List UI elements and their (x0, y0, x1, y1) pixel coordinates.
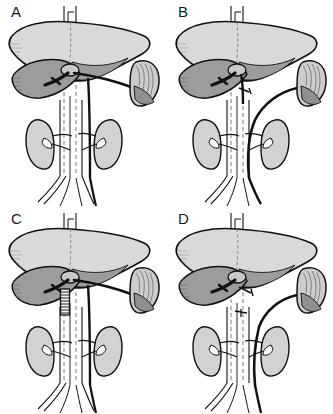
spleen-c (130, 268, 159, 313)
panel-b: B (167, 0, 333, 207)
panel-c-illustration (0, 207, 166, 414)
iliac-vessels-d (205, 383, 261, 413)
panel-b-illustration (167, 0, 333, 207)
panel-a-illustration (0, 0, 166, 207)
panel-c: C (0, 207, 166, 414)
kidneys-c (26, 327, 122, 376)
liver-d (176, 229, 317, 306)
portal-system-a (45, 64, 134, 178)
panel-d-illustration (167, 207, 333, 414)
iliac-vessels-a (38, 176, 96, 206)
panel-a: A (0, 0, 166, 207)
kidneys-d (193, 327, 289, 376)
iliac-vessels-b (205, 176, 261, 206)
spleen-a (130, 61, 159, 106)
iliac-vessels-c (38, 383, 96, 413)
spleen-b (297, 61, 326, 106)
interposition-graft-c (61, 289, 70, 315)
figure-panel-grid: A (0, 0, 333, 414)
kidneys-b (193, 120, 289, 169)
panel-d: D (167, 207, 333, 414)
spleen-d (297, 268, 326, 313)
kidneys-a (26, 120, 122, 169)
ligature-stump-b (239, 88, 251, 94)
liver-b (176, 22, 317, 99)
portal-system-c (45, 271, 134, 385)
